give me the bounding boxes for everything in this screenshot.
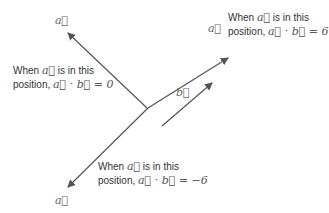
- annotation-perpendicular: When a⃗ is in this position, a⃗ · b⃗ = 0: [13, 64, 114, 92]
- label-b: b⃗: [176, 86, 190, 99]
- annotation-parallel: When a⃗ is in this position, a⃗ · b⃗ = 6: [228, 11, 329, 39]
- vector-a-parallel: [148, 58, 228, 108]
- label-a-upper-right: a⃗: [208, 22, 221, 35]
- label-a-lower-left: a⃗: [55, 194, 68, 207]
- label-a-upper-left: a⃗: [55, 14, 68, 27]
- annotation-antiparallel: When a⃗ is in this position, a⃗ · b⃗ = −…: [98, 160, 208, 188]
